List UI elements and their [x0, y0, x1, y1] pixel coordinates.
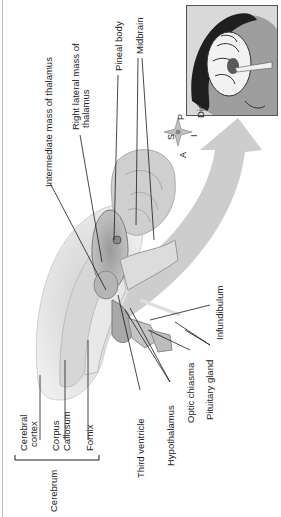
label-cerebral-cortex-2: cortex	[29, 421, 39, 447]
label-right-lateral-mass-2: thalamus	[81, 89, 91, 128]
label-fornix: Fornix	[85, 425, 95, 451]
compass-label-s: S	[166, 134, 176, 140]
label-corpus-callosum-2: Callosum	[62, 411, 72, 451]
label-pineal-body: Pineal body	[114, 21, 124, 71]
label-hypothalamus: Hypothalamus	[166, 405, 176, 466]
label-optic-chiasma: Optic chiasma	[186, 363, 196, 423]
compass-label-i: I	[189, 134, 199, 137]
cerebrum-bracket	[15, 455, 99, 460]
label-diencephalon: Diencephalon	[196, 60, 206, 118]
label-midbrain: Midbrain	[135, 18, 145, 54]
label-intermediate-mass: Intermediate mass of thalamus	[44, 57, 54, 187]
compass-label-a: A	[178, 152, 188, 158]
label-pituitary-gland: Pituitary gland	[205, 360, 215, 420]
label-infundibulum: Infundibulum	[215, 286, 225, 340]
orientation-compass-icon	[164, 118, 192, 146]
compass-label-p: P	[176, 114, 186, 120]
label-cerebrum: Cerebrum	[49, 470, 59, 512]
label-third-ventricle: Third ventricle	[136, 418, 146, 478]
label-corpus-callosum-1: Corpus	[51, 420, 61, 451]
